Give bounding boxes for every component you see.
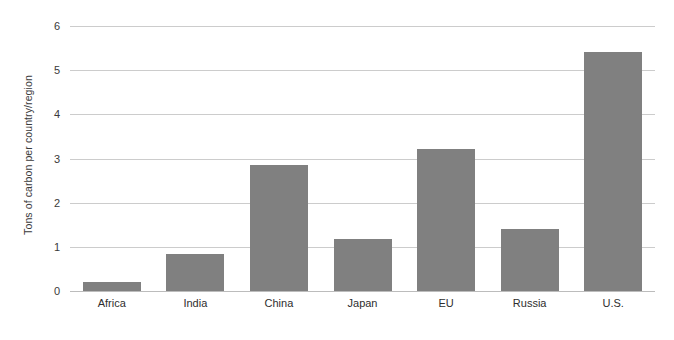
x-axis-tick-label: India: [183, 297, 207, 309]
bar: [166, 254, 224, 291]
bar: [83, 282, 141, 291]
bar: [334, 239, 392, 291]
x-axis-tick-label: Russia: [513, 297, 547, 309]
x-axis-tick-label: EU: [438, 297, 453, 309]
bar: [250, 165, 308, 291]
y-axis-tick-label: 1: [34, 241, 60, 253]
x-axis-tick-label: Japan: [348, 297, 378, 309]
y-axis-tick-label: 2: [34, 197, 60, 209]
y-axis-tick-labels: 0123456: [34, 26, 60, 291]
x-axis-tick-label: Africa: [98, 297, 126, 309]
axis-baseline: [70, 291, 655, 292]
y-axis-tick-label: 5: [34, 64, 60, 76]
bar: [584, 52, 642, 291]
bars-layer: [70, 26, 655, 291]
bar-chart: Tons of carbon per country/region 012345…: [0, 0, 674, 340]
bar: [417, 149, 475, 291]
bar: [501, 229, 559, 291]
x-axis-tick-labels: AfricaIndiaChinaJapanEURussiaU.S.: [70, 297, 655, 323]
y-axis-tick-label: 3: [34, 153, 60, 165]
y-axis-tick-label: 0: [34, 285, 60, 297]
x-axis-tick-label: China: [265, 297, 294, 309]
x-axis-tick-label: U.S.: [603, 297, 624, 309]
y-axis-tick-label: 6: [34, 20, 60, 32]
y-axis-tick-label: 4: [34, 108, 60, 120]
